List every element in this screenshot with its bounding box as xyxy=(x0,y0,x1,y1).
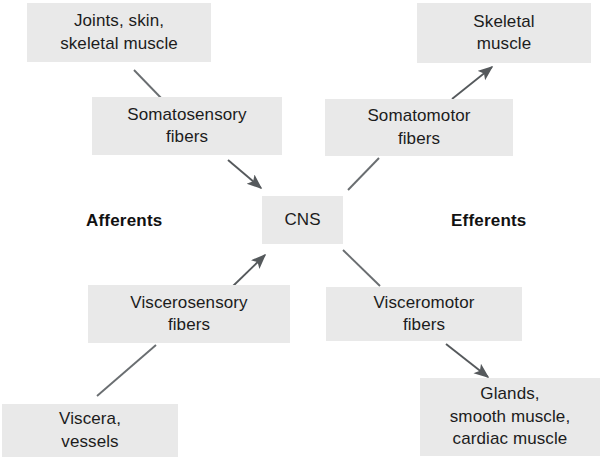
node-somatomotor-fibers: Somatomotor fibers xyxy=(325,99,513,156)
arrow-viscerosensory-to-cns xyxy=(232,255,265,287)
arrow-somatomotor-to-skeletal-muscle xyxy=(452,67,492,99)
node-skeletal-muscle: Skeletal muscle xyxy=(417,3,591,63)
node-viscerosensory-fibers: Viscerosensory fibers xyxy=(88,285,290,343)
nervous-system-diagram: Joints, skin, skeletal muscle Somatosens… xyxy=(0,0,603,471)
arrow-somatosensory-to-cns xyxy=(228,160,261,188)
line-joints-to-somatosensory xyxy=(134,70,163,100)
line-cns-to-somatomotor xyxy=(348,158,379,190)
node-cns: CNS xyxy=(262,196,343,244)
node-joints-skin-skeletal-muscle: Joints, skin, skeletal muscle xyxy=(27,3,211,62)
node-somatosensory-fibers: Somatosensory fibers xyxy=(92,97,282,155)
node-glands-smooth-cardiac-muscle: Glands, smooth muscle, cardiac muscle xyxy=(420,378,600,456)
arrow-visceromotor-to-glands xyxy=(446,344,488,377)
node-visceromotor-fibers: Visceromotor fibers xyxy=(326,287,522,341)
label-afferents: Afferents xyxy=(86,211,162,231)
label-efferents: Efferents xyxy=(451,211,527,231)
line-cns-to-visceromotor xyxy=(343,250,380,286)
line-viscera-to-viscerosensory xyxy=(97,345,156,396)
node-viscera-vessels: Viscera, vessels xyxy=(2,404,178,457)
